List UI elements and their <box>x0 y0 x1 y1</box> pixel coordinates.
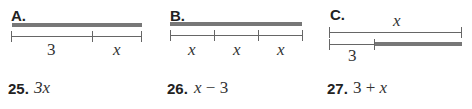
segment-label: x <box>113 40 121 60</box>
thick-bar <box>170 22 302 26</box>
bottom-segment-label: 3 <box>348 46 357 66</box>
tick-mark <box>302 30 303 41</box>
exercise-number: 27. <box>327 80 348 97</box>
segment-label: x <box>188 40 196 60</box>
variable: x <box>380 78 388 97</box>
tick-mark <box>170 30 171 41</box>
thick-bar <box>374 42 462 46</box>
tick-mark <box>374 39 375 50</box>
thick-bar <box>12 23 142 27</box>
tick-mark <box>329 39 330 50</box>
number-line <box>170 35 302 36</box>
exercise-expression: 3x <box>34 78 50 98</box>
segment-label: 3 <box>47 40 56 60</box>
number-line <box>12 36 142 37</box>
segment-label: x <box>277 40 285 60</box>
top-number-line <box>329 32 461 33</box>
segment-label: x <box>233 40 241 60</box>
bottom-number-line <box>329 44 374 45</box>
top-segment-label: x <box>393 11 401 31</box>
tick-mark <box>329 27 330 38</box>
exercise-number: 25. <box>8 80 29 97</box>
tick-mark <box>461 27 462 38</box>
diagram-label: A. <box>11 7 26 24</box>
variable: x <box>194 78 202 97</box>
exercise-expression: 3 + x <box>353 78 387 98</box>
tick-mark <box>141 31 142 42</box>
tick-mark <box>11 31 12 42</box>
tick-mark <box>92 31 93 42</box>
diagram-label: C. <box>330 6 345 23</box>
tick-mark <box>258 30 259 41</box>
exercise-number: 26. <box>167 80 188 97</box>
tick-mark <box>214 30 215 41</box>
exercise-expression: x − 3 <box>194 78 228 98</box>
